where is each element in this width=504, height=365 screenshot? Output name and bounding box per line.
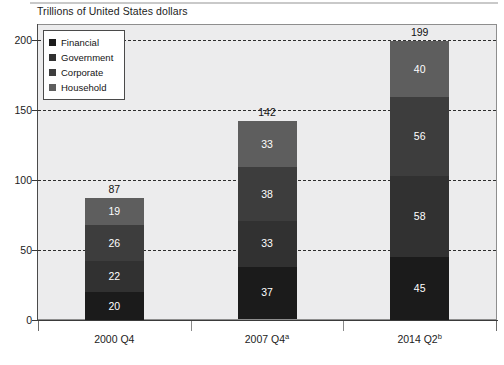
bar-2007-q4[interactable]: 33383337 bbox=[238, 121, 297, 320]
legend-swatch-icon bbox=[49, 39, 56, 46]
segment-value-label: 33 bbox=[261, 238, 273, 249]
y-tick-50: 50 bbox=[0, 244, 32, 256]
x-axis-separator-tick bbox=[496, 321, 497, 331]
segment-value-label: 22 bbox=[108, 271, 120, 282]
y-tick-mark bbox=[32, 180, 38, 181]
y-tick-label: 200 bbox=[14, 34, 32, 46]
legend-swatch-icon bbox=[49, 54, 56, 61]
bar-segment-government[interactable]: 22 bbox=[85, 261, 144, 292]
y-tick-label: 50 bbox=[20, 244, 32, 256]
x-axis-separator-tick bbox=[191, 321, 192, 331]
bar-segment-corporate[interactable]: 26 bbox=[85, 225, 144, 261]
x-axis-label-2: 2014 Q2b bbox=[343, 333, 496, 345]
y-tick-0: 0 bbox=[0, 314, 32, 326]
y-axis-line bbox=[37, 24, 38, 321]
y-tick-mark bbox=[32, 110, 38, 111]
segment-value-label: 20 bbox=[108, 301, 120, 312]
segment-value-label: 33 bbox=[261, 139, 273, 150]
bar-segment-government[interactable]: 33 bbox=[238, 221, 297, 267]
x-axis-separator-tick bbox=[38, 321, 39, 331]
legend-item-household[interactable]: Household bbox=[49, 80, 118, 95]
y-tick-label: 100 bbox=[14, 174, 32, 186]
y-tick-100: 100 bbox=[0, 174, 32, 186]
x-label-footnote: a bbox=[285, 332, 289, 341]
x-label-footnote: b bbox=[438, 332, 442, 341]
x-axis-label-1: 2007 Q4a bbox=[191, 333, 344, 345]
bar-segment-corporate[interactable]: 38 bbox=[238, 167, 297, 220]
segment-value-label: 45 bbox=[414, 283, 426, 294]
bar-segment-household[interactable]: 19 bbox=[85, 198, 144, 225]
legend-swatch-icon bbox=[49, 69, 56, 76]
segment-value-label: 37 bbox=[261, 287, 273, 298]
segment-value-label: 26 bbox=[108, 238, 120, 249]
legend-label: Financial bbox=[61, 37, 99, 48]
y-tick-mark bbox=[32, 40, 38, 41]
bar-segment-financial[interactable]: 37 bbox=[238, 267, 297, 319]
bar-2014-q2[interactable]: 40565845 bbox=[390, 41, 449, 320]
legend-swatch-icon bbox=[49, 84, 56, 91]
bar-total-label: 142 bbox=[238, 106, 297, 118]
bar-total-label: 199 bbox=[390, 26, 449, 38]
y-tick-200: 200 bbox=[0, 34, 32, 46]
y-tick-mark bbox=[32, 250, 38, 251]
legend-label: Household bbox=[61, 82, 106, 93]
stacked-bar-chart-figure: Trillions of United States dollars 19262… bbox=[0, 0, 504, 365]
bar-segment-household[interactable]: 33 bbox=[238, 121, 297, 167]
chart-legend: FinancialGovernmentCorporateHousehold bbox=[43, 30, 125, 100]
bar-2000-q4[interactable]: 19262220 bbox=[85, 198, 144, 320]
bar-segment-household[interactable]: 40 bbox=[390, 41, 449, 97]
x-axis-separator-tick bbox=[343, 321, 344, 331]
bar-segment-financial[interactable]: 20 bbox=[85, 292, 144, 320]
legend-label: Government bbox=[61, 52, 113, 63]
y-tick-label: 150 bbox=[14, 104, 32, 116]
bar-total-label: 87 bbox=[85, 183, 144, 195]
segment-value-label: 40 bbox=[414, 64, 426, 75]
x-axis-line bbox=[37, 320, 498, 321]
segment-value-label: 56 bbox=[414, 131, 426, 142]
bar-segment-financial[interactable]: 45 bbox=[390, 257, 449, 320]
legend-item-government[interactable]: Government bbox=[49, 50, 118, 65]
segment-value-label: 58 bbox=[414, 211, 426, 222]
x-axis-label-0: 2000 Q4 bbox=[38, 333, 191, 345]
legend-item-corporate[interactable]: Corporate bbox=[49, 65, 118, 80]
y-tick-150: 150 bbox=[0, 104, 32, 116]
segment-value-label: 38 bbox=[261, 189, 273, 200]
bar-segment-corporate[interactable]: 56 bbox=[390, 97, 449, 175]
legend-item-financial[interactable]: Financial bbox=[49, 35, 118, 50]
chart-title: Trillions of United States dollars bbox=[37, 5, 188, 17]
legend-label: Corporate bbox=[61, 67, 103, 78]
bar-segment-government[interactable]: 58 bbox=[390, 176, 449, 257]
segment-value-label: 19 bbox=[108, 206, 120, 217]
